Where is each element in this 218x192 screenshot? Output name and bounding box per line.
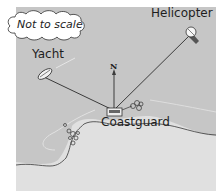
north-label: N bbox=[110, 61, 117, 71]
helicopter-label: Helicopter bbox=[151, 6, 213, 20]
yacht-label: Yacht bbox=[32, 47, 64, 61]
coastguard-label: Coastguard bbox=[101, 115, 170, 129]
not-to-scale-note: Not to scale bbox=[17, 18, 83, 31]
